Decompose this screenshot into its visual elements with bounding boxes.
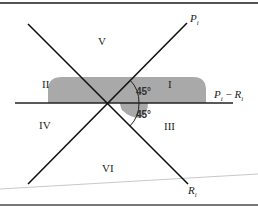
angle-label-upper: 45° xyxy=(136,87,151,97)
region-label-v: V xyxy=(98,36,106,47)
region-label-iii: III xyxy=(164,121,175,132)
axis-label-p: Pi xyxy=(190,13,199,27)
slanted-baseline xyxy=(0,174,258,189)
axis-label-r: Ri xyxy=(188,185,197,199)
axis-label-p-minus-r: Pi − Ri xyxy=(214,89,243,103)
region-label-ii: II xyxy=(42,79,49,90)
region-label-i: I xyxy=(168,79,172,90)
diagram-canvas xyxy=(0,0,258,207)
angle-label-lower: 45° xyxy=(136,110,151,120)
diagonal-p xyxy=(28,23,187,24)
region-label-vi: VI xyxy=(102,163,114,174)
p-line xyxy=(28,22,188,23)
region-label-iv: IV xyxy=(39,120,51,131)
